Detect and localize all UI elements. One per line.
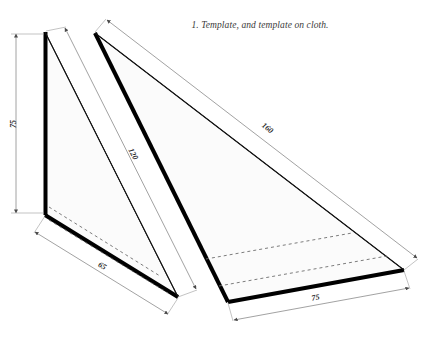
extension-line-hyp-end <box>178 290 197 297</box>
dimension-label-right-hypotenuse: 160 <box>260 121 275 135</box>
figure-root: 75 65 120 160 75 <box>0 0 428 341</box>
figure-caption: 1. Template, and template on cloth. <box>150 20 370 30</box>
dimension-label-left-base: 65 <box>97 260 109 272</box>
extension-line-long-start <box>95 19 106 32</box>
extension-line-base-end <box>167 298 178 315</box>
dimension-label-left-hypotenuse: 120 <box>127 147 140 162</box>
technical-drawing: 75 65 120 160 75 <box>0 0 428 341</box>
extension-line-rbase-end <box>404 271 410 289</box>
dimension-left-height: 75 <box>9 34 44 213</box>
dimension-label-left-height: 75 <box>9 120 18 128</box>
extension-line-long-end <box>404 259 418 270</box>
dimension-label-right-base: 75 <box>311 292 320 302</box>
extension-line-rbase-start <box>228 303 233 321</box>
extension-line-base-start <box>34 216 45 233</box>
extension-line-hyp-start <box>46 27 66 31</box>
